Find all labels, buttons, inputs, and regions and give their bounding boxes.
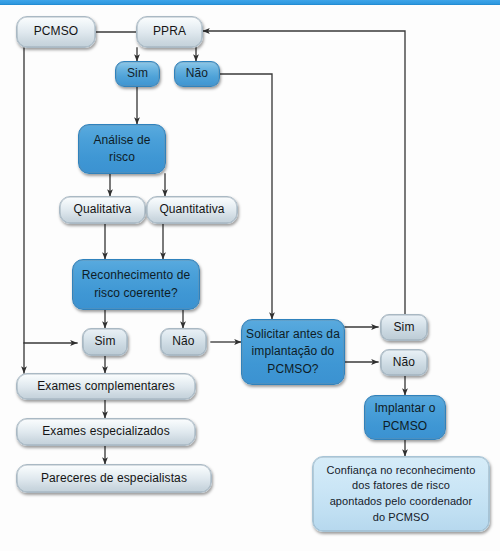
node-qualitativa[interactable]: Qualitativa xyxy=(59,196,146,224)
node-exames-complementares[interactable]: Exames complementares xyxy=(16,373,196,400)
node-solicitar-sim[interactable]: Sim xyxy=(380,314,428,341)
node-pareceres-especialistas[interactable]: Pareceres de especialistas xyxy=(16,464,212,493)
node-reconhecimento[interactable]: Reconhecimento de risco coerente? xyxy=(72,259,200,310)
node-confianca-reconhecimento[interactable]: Confiança no reconhecimento dos fatores … xyxy=(312,456,490,532)
node-reconhecimento-sim[interactable]: Sim xyxy=(82,328,128,356)
node-confianca-line2: dos fatores de risco xyxy=(352,478,450,494)
node-solicitar-antes-line3: PCMSO? xyxy=(267,361,318,378)
node-analise-risco[interactable]: Análise de risco xyxy=(78,124,166,174)
node-implantar-pcmso[interactable]: Implantar o PCMSO xyxy=(364,395,446,440)
node-ppra-label: PPRA xyxy=(153,23,186,40)
node-solicitar-sim-label: Sim xyxy=(394,319,415,336)
node-solicitar-nao-label: Não xyxy=(393,354,415,371)
node-solicitar-nao[interactable]: Não xyxy=(380,349,428,376)
node-confianca-line4: do PCMSO xyxy=(373,510,429,526)
node-ppra-sim-label: Sim xyxy=(127,65,148,82)
edge-solic-sim-to-ppra xyxy=(203,31,405,314)
node-reconhecimento-nao[interactable]: Não xyxy=(160,328,207,356)
node-pareceres-especialistas-label: Pareceres de especialistas xyxy=(41,470,187,487)
node-pcmso[interactable]: PCMSO xyxy=(16,16,96,48)
node-qualitativa-label: Qualitativa xyxy=(74,201,132,218)
node-implantar-pcmso-line2: PCMSO xyxy=(383,418,428,435)
node-confianca-line1: Confiança no reconhecimento xyxy=(327,463,476,479)
node-ppra-nao[interactable]: Não xyxy=(174,61,220,87)
node-exames-especializados[interactable]: Exames especializados xyxy=(16,418,196,446)
node-quantitativa[interactable]: Quantitativa xyxy=(146,196,238,224)
node-analise-risco-line1: Análise de xyxy=(93,132,150,149)
node-reconhecimento-sim-label: Sim xyxy=(95,333,116,350)
node-confianca-line3: apontados pelo coordenador xyxy=(330,494,473,510)
top-blue-strip xyxy=(0,0,500,5)
node-reconhecimento-line1: Reconhecimento de xyxy=(82,267,190,284)
flowchart-canvas: PCMSO PPRA Sim Não Análise de risco Qual… xyxy=(0,0,500,551)
node-exames-especializados-label: Exames especializados xyxy=(42,423,170,440)
node-quantitativa-label: Quantitativa xyxy=(159,201,224,218)
node-ppra-nao-label: Não xyxy=(186,65,208,82)
node-solicitar-antes[interactable]: Solicitar antes da implantação do PCMSO? xyxy=(241,319,345,385)
node-exames-complementares-label: Exames complementares xyxy=(37,378,175,395)
node-solicitar-antes-line2: implantação do xyxy=(252,343,335,360)
node-implantar-pcmso-line1: Implantar o xyxy=(374,400,435,417)
node-reconhecimento-nao-label: Não xyxy=(172,333,194,350)
node-reconhecimento-line2: risco coerente? xyxy=(94,285,178,302)
node-ppra[interactable]: PPRA xyxy=(136,16,203,48)
node-ppra-sim[interactable]: Sim xyxy=(115,61,160,87)
node-solicitar-antes-line1: Solicitar antes da xyxy=(246,326,340,343)
node-analise-risco-line2: risco xyxy=(109,149,135,166)
node-pcmso-label: PCMSO xyxy=(34,23,79,40)
